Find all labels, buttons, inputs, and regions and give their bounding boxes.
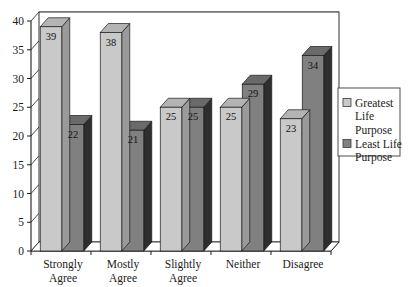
legend-label: Purpose [355, 124, 392, 137]
x-axis-category-label: Agree [49, 272, 77, 285]
y-axis-tick-label: 30 [13, 73, 25, 85]
bar-value-label: 25 [226, 111, 237, 122]
y-axis-tick-label: 20 [13, 130, 25, 142]
y-axis-tick-label: 0 [18, 245, 24, 257]
x-axis-category-label: Mostly [107, 258, 140, 271]
bar [40, 18, 70, 251]
bar-value-label: 39 [46, 31, 57, 42]
chart-canvas: 0510152025303540 StronglyAgreeMostlyAgre… [0, 0, 408, 287]
legend: GreatestLifePurposeLeast LifePurpose [338, 88, 402, 164]
x-axis-category-label: Agree [169, 272, 197, 285]
bar-value-label: 22 [68, 129, 79, 140]
y-axis-tick-label: 40 [13, 15, 25, 27]
y-axis-tick-label: 10 [13, 188, 25, 200]
legend-label: Purpose [355, 151, 392, 164]
y-axis-tick-label: 15 [13, 159, 25, 171]
x-axis-category-label: Slightly [165, 258, 202, 271]
bar-value-label: 25 [166, 111, 177, 122]
legend-label: Greatest [355, 97, 394, 109]
bar-group [220, 75, 272, 251]
y-axis-tick-label: 5 [18, 216, 24, 228]
bar-chart: 0510152025303540 StronglyAgreeMostlyAgre… [0, 0, 408, 287]
bar [100, 24, 130, 252]
legend-swatch [343, 140, 351, 148]
x-axis-category-label: Strongly [43, 258, 83, 271]
bar-value-label: 38 [106, 37, 117, 48]
x-axis-category-label: Neither [226, 258, 261, 270]
bar-value-label: 23 [286, 123, 297, 134]
x-axis-category-label: Agree [109, 272, 137, 285]
legend-swatch [343, 99, 351, 107]
bar-value-label: 25 [188, 111, 199, 122]
legend-label: Life [355, 110, 374, 122]
x-axis-category-label: Disagree [283, 258, 324, 271]
bar-value-label: 29 [248, 88, 259, 99]
y-axis-tick-label: 25 [13, 101, 25, 113]
y-axis-tick-label: 35 [13, 44, 25, 56]
legend-label: Least Life [355, 138, 402, 150]
bar-value-label: 21 [128, 134, 139, 145]
bar-value-label: 34 [308, 60, 319, 71]
